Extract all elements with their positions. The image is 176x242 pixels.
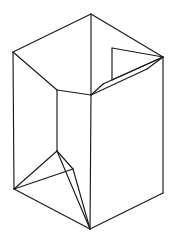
figure-container bbox=[0, 0, 176, 242]
box-line-drawing bbox=[0, 0, 176, 242]
